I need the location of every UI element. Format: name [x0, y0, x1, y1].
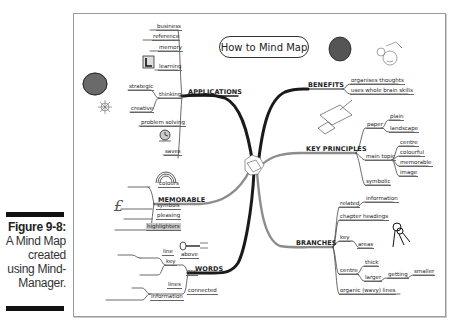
node-colourful: colourful	[399, 149, 425, 157]
spark-icon	[98, 100, 112, 114]
node-centre: centre	[399, 139, 419, 147]
node-related: related	[339, 200, 360, 208]
node-colours: colours	[158, 180, 180, 188]
face-doodle-icon	[377, 42, 402, 65]
node-information: information	[150, 293, 184, 301]
clock-icon	[159, 130, 171, 141]
node-image: image	[399, 169, 418, 177]
node-branches-centre: centre	[339, 267, 359, 275]
node-areas: areas	[357, 241, 374, 249]
node-business: business	[156, 23, 182, 31]
node-thinking: thinking	[158, 91, 182, 99]
brain-title-icon	[329, 37, 351, 61]
branch-key-principles: KEY PRINCIPLES	[306, 145, 367, 153]
node-related-information: information	[365, 195, 399, 203]
key-icon	[180, 242, 208, 250]
keys-bunch-icon	[393, 223, 410, 247]
node-problem-solving: problem solving	[140, 119, 186, 127]
node-thick: thick	[364, 259, 379, 267]
node-larger: larger	[364, 274, 382, 282]
node-line: line	[162, 248, 174, 256]
node-strategic: strategic	[128, 83, 154, 91]
node-key: key	[165, 258, 177, 266]
node-smaller: smaller	[413, 268, 435, 276]
branch-benefits: BENEFITS	[308, 81, 344, 89]
node-organic-lines: organic (wavy) lines	[339, 287, 396, 295]
node-landscape: landscape	[389, 125, 419, 133]
node-plain: plain	[389, 113, 404, 121]
node-highlighters: highlighters	[146, 223, 181, 231]
brain-icon	[83, 73, 107, 95]
central-image-icon	[245, 155, 264, 175]
node-connected: connected	[187, 287, 218, 295]
node-paper: paper	[366, 121, 384, 129]
branch-branches: BRANCHES	[296, 239, 337, 247]
node-memorable: memorable	[399, 159, 433, 167]
branch-words: WORDS	[195, 265, 223, 273]
node-pleasing: pleasing	[156, 212, 181, 220]
node-symbolic: symbolic	[365, 178, 391, 186]
node-one: one	[186, 268, 198, 276]
node-memory: memory	[158, 44, 183, 52]
mind-map-title: How to Mind Map	[219, 36, 309, 58]
node-symbols: symbols	[156, 202, 181, 210]
hand-writing-icon	[318, 100, 352, 134]
node-main-topic: main topic	[365, 153, 396, 161]
node-learning: learning	[158, 63, 182, 71]
node-organises-thoughts: organises thoughts	[350, 77, 405, 85]
node-above: above	[180, 251, 199, 259]
node-chapter-headings: chapter headings	[339, 213, 389, 221]
node-uses-whole-brain: uses whole brain skills	[350, 87, 414, 95]
branch-applications: APPLICATIONS	[188, 88, 242, 96]
node-getting: getting	[387, 271, 409, 279]
learning-book-icon	[143, 56, 154, 68]
node-saves: saves	[164, 148, 182, 156]
node-branches-key: key	[339, 234, 351, 242]
node-lines: lines	[167, 281, 182, 289]
node-reference: reference	[152, 33, 180, 41]
node-creative: creative	[130, 105, 154, 113]
pound-symbol-icon: £	[113, 197, 124, 215]
